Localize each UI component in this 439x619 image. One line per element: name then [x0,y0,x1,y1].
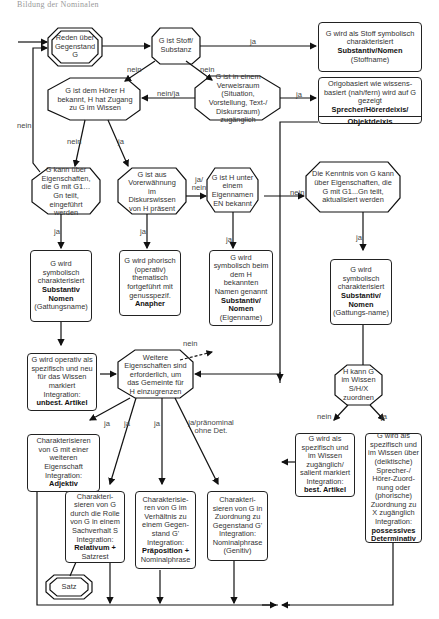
edge-label-hoerer-ja: ja [118,138,124,146]
relativum-result-text: Charakteri-sieren von G durch die Rolle … [68,493,122,545]
verweis-decision-text: G ist in einem Verweisraum (Situation, V… [202,73,274,125]
relativum-result-box: Charakteri-sieren von G durch die Rolle … [65,491,125,563]
edge-label-kenntnis-ja: ja [356,234,362,242]
anapher-result-bold: Anapher [135,300,165,309]
stoff-result-box: G wird als Stoff symbolisch charakterisi… [318,22,422,72]
praeposition-result-text: Charakterisie-ren von G im Verhältnis zu… [138,496,193,548]
gattung2-result-text: G wird symbolisch charakterisiert [333,266,389,292]
unbest-result-text: G wird operativ als spezifisch und neu f… [30,356,94,399]
best-artikel-box: G wird als spezifisch und im Wissen zugä… [295,433,355,497]
hoerer-decision: G ist dem Hörer H bekannt, H hat Zugang … [50,80,140,120]
eigenname-result-bold: Substantiv/ Nomen [212,297,270,314]
relativum-result-note: Satzrest [81,553,108,562]
adjektiv-result-box: Charakterisieren von G mit einer weitere… [27,434,100,492]
hoerer-decision-text: G ist dem Hörer H bekannt, H hat Zugang … [56,87,134,113]
edge-label-eig-ja: ja [54,228,60,236]
edge-label-vorerw-janein: ja/ nein [191,176,207,192]
edge-label-verweis-neinja: nein/ja [157,90,179,98]
edge-label-stoff-nein-right: nein [200,66,214,74]
vorerwaehnung-decision-text: G ist aus Vorerwähnung im Diskurswissen … [124,171,180,214]
stoff-result-text: G wird als Stoff symbolisch charakterisi… [321,30,419,47]
genitiv-result-text: Charakteri-sieren von G in Zuordnung zu … [210,496,265,556]
edge-label-stoff-nein-left: nein [127,66,141,74]
eigenname-result-text: G wird symbolisch beim dem H bekannten N… [212,254,270,297]
eigenname-result-box: G wird symbolisch beim dem H bekannten N… [209,250,273,326]
weitere-decision-text: Weitere Eigenschaften sind erforderlich,… [124,354,187,397]
kenntnis-decision: Die Kenntnis von G kann über Eigenschaft… [306,163,400,212]
eigenschaften-decision-text: G kann über Eigenschaften, die G mit G1…… [38,166,94,218]
anapher-result-text: G wird phorisch (operativ) thematisch fo… [122,257,178,300]
best-result-text: G wird als spezifisch und im Wissen zugä… [298,435,352,487]
possessiv-result-text: G wird als spezifisch und im Wissen über… [368,432,419,527]
best-result-bold: best. Artikel [304,486,346,495]
zuordnen-decision: H kann G im Wissen S/H/X zuordnen [335,366,382,404]
deixis-result-top: Origobasiert wie wissens-basiert (nah/fe… [319,78,421,116]
adjektiv-result-text: Charakterisieren von G mit einer weitere… [30,437,97,480]
edge-label-eigenname-ja: ja [226,236,232,244]
possessiv-result-box: G wird als spezifisch und im Wissen über… [365,433,422,543]
gattung2-result-note: (Gattungs-name) [333,309,389,318]
deixis-result-text: Origobasiert wie wissens-basiert (nah/fe… [322,80,418,106]
edge-label-verweis-ja: ja [296,91,302,99]
edge-label-stoff-ja: ja [250,38,256,46]
start-node: Reden über Gegenstand G [50,30,100,64]
edge-label-weitere-ja-2: ja [124,420,130,428]
stoff-decision-text: G ist Stoff/ Substanz [158,37,194,54]
zuordnen-decision-text: H kann G im Wissen S/H/X zuordnen [341,368,376,402]
deixis-result-bold: Sprecher/Hörerdeixis/ [322,106,418,115]
unbest-result-bold: unbest. Artikel [36,399,87,408]
gattung-result-bold: Substantiv Nomen [33,286,89,303]
edge-label-vor-ja: ja [140,228,146,236]
weitere-decision: Weitere Eigenschaften sind erforderlich,… [118,352,193,398]
gattung2-result-bold: Substantiv/ Nomen [333,292,389,309]
eigenname-result-note: (Eigenname) [220,314,262,323]
possessiv-result-bold: possessives Determinativ [368,527,419,544]
deixis-result-box: Origobasiert wie wissens-basiert (nah/fe… [318,77,422,124]
start-node-text: Reden über Gegenstand G [55,34,95,60]
praeposition-result-note: Nominalphrase [141,556,191,565]
edge-label-zuordnen-nein: nein [317,413,331,421]
eigenname-decision-text: G ist H unter einem Eigennamen EN bekann… [212,174,254,208]
satz-node: Satz [48,578,90,596]
gattung-result-box: G wird symbolisch charakterisiert Substa… [30,250,92,322]
edge-label-hoerer-nein: nein [67,138,81,146]
satz-node-text: Satz [62,583,77,592]
verweis-decision: G ist in einem Verweisraum (Situation, V… [196,78,280,120]
edge-label-zuordnen-ja: ja [381,413,387,421]
genitiv-result-box: Charakteri-sieren von G in Zuordnung zu … [207,491,268,561]
edge-label-praenominal: ja/pränominal ohne Det. [183,419,239,435]
anapher-result-box: G wird phorisch (operativ) thematisch fo… [119,250,181,316]
unbest-artikel-box: G wird operativ als spezifisch und neu f… [27,353,97,411]
kenntnis-decision-text: Die Kenntnis von G kann über Eigenschaft… [312,170,394,204]
gattung2-result-box: G wird symbolisch charakterisiert Substa… [330,259,392,325]
edge-label-weitere-ja-1: ja [104,420,110,428]
vorerwaehnung-decision: G ist aus Vorerwähnung im Diskurswissen … [118,170,186,214]
edge-label-weitere-nein: nein [183,340,197,348]
gattung-result-note: (Gattungsname) [34,303,87,312]
eigenschaften-decision: G kann über Eigenschaften, die G mit G1…… [32,170,100,214]
gattung-result-text: G wird symbolisch charakterisiert [33,260,89,286]
edge-label-loop-nein: nein [17,122,31,130]
eigenname-decision: G ist H unter einem Eigennamen EN bekann… [207,170,258,212]
edge-label-weitere-ja-3: ja [154,420,160,428]
adjektiv-result-bold: Adjektiv [49,480,78,489]
stoff-result-note: (Stoffname) [351,56,389,65]
stoff-decision: G ist Stoff/ Substanz [152,29,200,63]
objektdeixis-label: Objektdeixis [319,116,421,128]
praeposition-result-box: Charakterisie-ren von G im Verhältnis zu… [135,491,196,569]
edge-label-eigen-nein: nein [290,189,304,197]
